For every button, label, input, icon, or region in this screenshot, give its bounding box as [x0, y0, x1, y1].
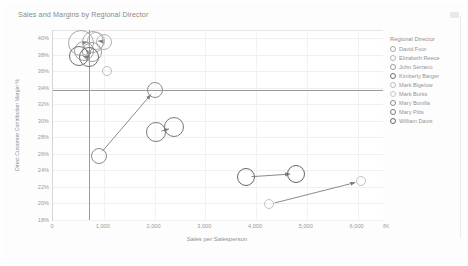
data-bubble[interactable]: [164, 117, 184, 137]
data-bubble[interactable]: [146, 122, 166, 142]
horizontal-gridline: [53, 220, 383, 221]
legend-item-label: Elizabeth Reece: [399, 55, 440, 61]
data-bubble[interactable]: [102, 66, 112, 76]
legend-item[interactable]: David Foor: [390, 44, 466, 53]
legend-item[interactable]: Mary Pitts: [390, 107, 466, 116]
chart-card: Sales and Margins by Regional Director D…: [4, 4, 464, 262]
y-axis-tick-label: 28%: [38, 134, 49, 140]
data-bubble[interactable]: [356, 176, 366, 186]
y-axis-title-text: Direct Customer Contribution Margin %: [14, 79, 20, 171]
data-bubble[interactable]: [287, 165, 305, 183]
y-axis-tick-label: 22%: [38, 184, 49, 190]
legend-item-label: Mary Pitts: [399, 109, 424, 115]
x-axis-tick-label: 6,000: [350, 223, 364, 229]
legend-item[interactable]: Mark Bigelow: [390, 80, 466, 89]
y-axis-tick-label: 40%: [38, 35, 49, 41]
legend-item-label: Mary Bonilla: [399, 100, 430, 106]
legend-marker-circle-icon: [390, 82, 396, 88]
legend-item[interactable]: William Davis: [390, 116, 466, 125]
y-axis-title: Direct Customer Contribution Margin %: [12, 30, 22, 220]
legend-marker-circle-icon: [390, 73, 396, 79]
y-axis-tick-label: 34%: [38, 85, 49, 91]
resize-handle-icon[interactable]: [450, 12, 459, 18]
legend-item[interactable]: Elizabeth Reece: [390, 53, 466, 62]
data-bubbles: [53, 30, 383, 220]
legend-title: Regional Director: [390, 36, 466, 42]
data-bubble[interactable]: [91, 148, 107, 164]
legend-marker-circle-icon: [390, 91, 396, 97]
x-axis-ticks: 01,0002,0003,0004,0005,0006,000: [52, 223, 382, 233]
y-axis-tick-label: 30%: [38, 118, 49, 124]
chart-screenshot: Sales and Margins by Regional Director D…: [0, 0, 468, 266]
data-bubble[interactable]: [79, 47, 99, 67]
data-bubble[interactable]: [237, 168, 255, 186]
legend-marker-circle-icon: [390, 46, 396, 52]
x-axis-title: Sales per Salesperson: [52, 236, 382, 242]
legend-item[interactable]: Kimberly Barger: [390, 71, 466, 80]
legend-marker-circle-icon: [390, 64, 396, 70]
x-axis-tick-label: 1,000: [96, 223, 110, 229]
legend-marker-circle-icon: [390, 109, 396, 115]
y-axis-tick-label: 26%: [38, 151, 49, 157]
legend-marker-circle-icon: [390, 55, 396, 61]
x-axis-tick-label: 5,000: [299, 223, 313, 229]
legend-item[interactable]: Mary Bonilla: [390, 98, 466, 107]
y-axis-tick-label: 18%: [38, 217, 49, 223]
y-axis-tick-label: 24%: [38, 167, 49, 173]
x-axis-tick-label: 2,000: [147, 223, 161, 229]
legend-item-label: John Serrano: [399, 64, 433, 70]
legend-item-label: David Foor: [399, 46, 426, 52]
legend-item[interactable]: Mark Burks: [390, 89, 466, 98]
x-axis-tick-label: 3,000: [197, 223, 211, 229]
y-axis-tick-label: 32%: [38, 101, 49, 107]
legend-item-label: Kimberly Barger: [399, 73, 439, 79]
page-title: Sales and Margins by Regional Director: [18, 10, 148, 19]
y-axis-tick-label: 38%: [38, 52, 49, 58]
legend-marker-circle-icon: [390, 118, 396, 124]
y-axis-ticks: 40%38%36%34%32%30%28%26%24%22%20%18%: [24, 30, 49, 220]
legend-item-label: Mark Bigelow: [399, 82, 433, 88]
legend-marker-circle-icon: [390, 100, 396, 106]
legend-item[interactable]: John Serrano: [390, 62, 466, 71]
y-axis-tick-label: 20%: [38, 200, 49, 206]
y-axis-tick-label: 36%: [38, 68, 49, 74]
data-bubble[interactable]: [147, 82, 163, 98]
x-axis-overflow-label: 8K: [383, 223, 390, 229]
legend-items: David FoorElizabeth ReeceJohn SerranoKim…: [390, 44, 466, 125]
data-bubble[interactable]: [264, 199, 274, 209]
x-axis-tick-label: 0: [50, 223, 53, 229]
x-axis-tick-label: 4,000: [248, 223, 262, 229]
plot-area: [52, 30, 383, 221]
legend-item-label: Mark Burks: [399, 91, 427, 97]
legend-item-label: William Davis: [399, 118, 433, 124]
legend: Regional Director David FoorElizabeth Re…: [390, 36, 466, 125]
